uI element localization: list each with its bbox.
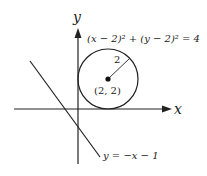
center-point (105, 76, 110, 81)
x-axis-label: x (174, 101, 182, 117)
x-axis (14, 106, 172, 113)
y-axis-label: y (72, 9, 82, 25)
y-axis-arrow-icon (75, 28, 82, 38)
y-axis (75, 28, 82, 164)
x-axis-arrow-icon (162, 106, 172, 113)
radius-label: 2 (114, 54, 120, 65)
circle-equation: (x − 2)² + (y − 2)² = 4 (87, 33, 200, 44)
center-label: (2, 2) (94, 85, 121, 96)
diagram-canvas: x y (x − 2)² + (y − 2)² = 4 2 (2, 2) y =… (0, 0, 207, 176)
line-equation: y = −x − 1 (102, 150, 159, 161)
